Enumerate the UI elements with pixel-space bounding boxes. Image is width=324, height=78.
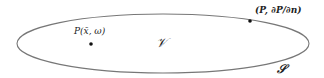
volume-label: 𝒱: [156, 36, 167, 49]
boundary-point-label: (P, ∂P/∂n): [255, 6, 302, 15]
boundary-point-marker: [248, 19, 252, 23]
interior-point-label: P(x̄, ω): [74, 27, 105, 36]
surface-label: 𝒮: [277, 63, 286, 75]
interior-point-marker: [89, 42, 93, 46]
